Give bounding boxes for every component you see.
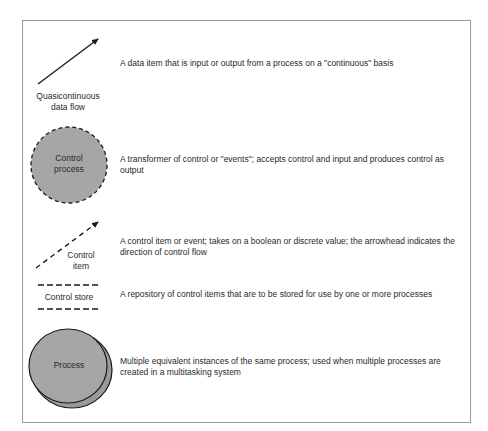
label-line: item: [62, 261, 100, 272]
control-item-label: Control item: [62, 250, 100, 272]
label-line: data flow: [26, 102, 110, 113]
label-line: process: [30, 164, 108, 175]
process-label: Process: [30, 360, 108, 371]
label-line: Control store: [30, 292, 108, 303]
quasicontinuous-label: Quasicontinuous data flow: [26, 91, 110, 113]
control-store-description: A repository of control items that are t…: [120, 289, 460, 300]
control-process-description: A transformer of control or "events"; ac…: [120, 154, 460, 176]
label-line: Control: [30, 153, 108, 164]
quasicontinuous-description: A data item that is input or output from…: [120, 58, 460, 69]
label-line: Control: [62, 250, 100, 261]
label-line: Quasicontinuous: [26, 91, 110, 102]
label-line: Process: [30, 360, 108, 371]
control-item-description: A control item or event; takes on a bool…: [120, 236, 460, 258]
quasicontinuous-data-flow-icon: [38, 39, 98, 84]
control-store-label: Control store: [30, 292, 108, 303]
process-description: Multiple equivalent instances of the sam…: [120, 356, 460, 378]
control-process-label: Control process: [30, 153, 108, 175]
